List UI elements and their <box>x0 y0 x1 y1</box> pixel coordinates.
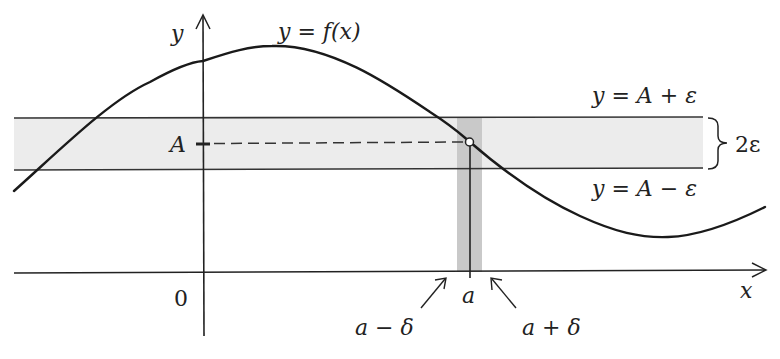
a-plus-delta-label: a + δ <box>522 315 581 340</box>
a-level-label: A <box>168 132 186 157</box>
x-axis-label: x <box>740 278 753 303</box>
point-a-label: a <box>462 283 475 308</box>
band-fill <box>14 118 703 169</box>
left-delta-arrow <box>421 279 445 308</box>
y-axis-label: y <box>170 21 184 46</box>
y-axis <box>203 16 204 336</box>
epsilon-delta-diagram: y y = f(x) y = A + ε y = A − ε 2ε A 0 x … <box>0 0 780 359</box>
a-minus-delta-label: a − δ <box>355 315 414 340</box>
origin-label: 0 <box>174 286 188 311</box>
x-axis <box>14 270 765 273</box>
upper-band-label: y = A + ε <box>591 83 697 108</box>
upper-band-line <box>14 117 703 118</box>
band-width-label: 2ε <box>735 132 760 157</box>
brace-icon <box>708 118 727 169</box>
limit-point <box>466 138 474 146</box>
curve-label: y = f(x) <box>277 19 361 44</box>
right-delta-arrow <box>492 279 516 308</box>
lower-band-label: y = A − ε <box>591 176 697 201</box>
